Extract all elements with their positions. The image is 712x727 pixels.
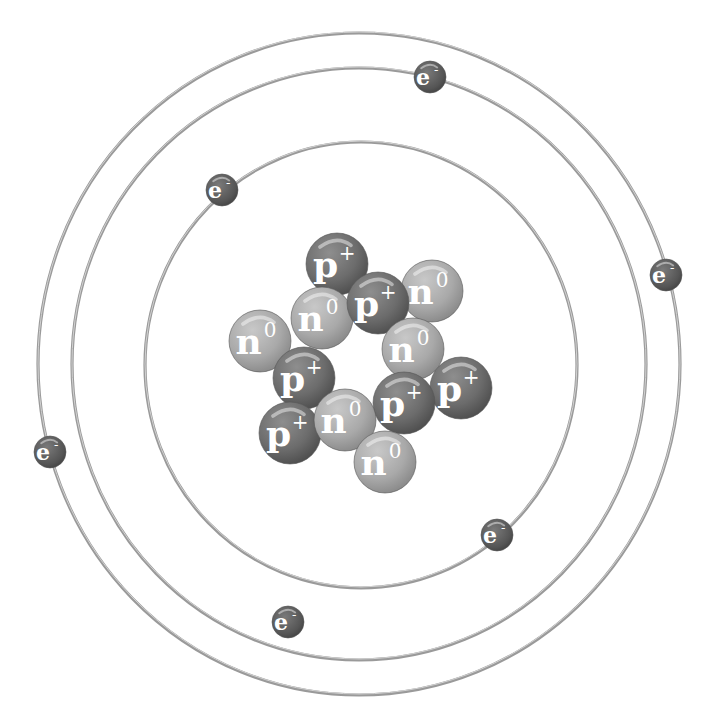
orbit-highlight bbox=[38, 32, 680, 694]
electron-charge: - bbox=[292, 607, 296, 622]
neutron-charge: 0 bbox=[264, 318, 277, 342]
neutron: n0 bbox=[354, 431, 416, 493]
neutron-symbol: n bbox=[388, 328, 414, 370]
electron-symbol: e bbox=[208, 177, 222, 203]
proton: p+ bbox=[430, 357, 492, 419]
orbit-middle bbox=[72, 68, 646, 660]
electron-charge: - bbox=[501, 520, 505, 535]
proton-symbol: p bbox=[354, 282, 379, 324]
proton-charge: + bbox=[380, 280, 397, 304]
electron-charge: - bbox=[670, 260, 674, 275]
electron: e- bbox=[481, 519, 513, 551]
orbit-outer bbox=[38, 33, 680, 695]
proton: p+ bbox=[373, 372, 435, 434]
proton: p+ bbox=[259, 402, 321, 464]
proton-symbol: p bbox=[266, 412, 291, 454]
neutron-charge: 0 bbox=[417, 326, 430, 350]
atom-diagram: e-e-e-e-e-e- p+n0n0n0p+n0p+p+p+p+n0n0 bbox=[0, 0, 712, 727]
electron: e- bbox=[272, 606, 304, 638]
neutron: n0 bbox=[291, 287, 353, 349]
proton-symbol: p bbox=[280, 357, 305, 399]
proton-charge: + bbox=[292, 410, 309, 434]
neutron-charge: 0 bbox=[326, 295, 339, 319]
neutron: n0 bbox=[401, 260, 463, 322]
orbit-group bbox=[38, 32, 680, 695]
orbit-highlight bbox=[72, 67, 646, 659]
neutron-symbol: n bbox=[360, 441, 386, 483]
electron: e- bbox=[206, 174, 238, 206]
proton-symbol: p bbox=[437, 367, 462, 409]
electron-symbol: e bbox=[483, 522, 497, 548]
electron-symbol: e bbox=[416, 64, 430, 90]
electron-charge: - bbox=[54, 437, 58, 452]
proton-charge: + bbox=[406, 380, 423, 404]
proton-symbol: p bbox=[380, 382, 405, 424]
neutron: n0 bbox=[382, 318, 444, 380]
neutron-symbol: n bbox=[235, 320, 261, 362]
proton-charge: + bbox=[306, 355, 323, 379]
electron-symbol: e bbox=[36, 439, 50, 465]
electron-group: e-e-e-e-e-e- bbox=[34, 61, 682, 638]
proton-symbol: p bbox=[313, 243, 338, 285]
neutron-charge: 0 bbox=[349, 397, 362, 421]
neutron-symbol: n bbox=[320, 399, 346, 441]
neutron-symbol: n bbox=[407, 270, 433, 312]
proton-charge: + bbox=[339, 241, 356, 265]
electron: e- bbox=[650, 259, 682, 291]
nucleus: p+n0n0n0p+n0p+p+p+p+n0n0 bbox=[229, 233, 492, 493]
neutron-charge: 0 bbox=[389, 439, 402, 463]
orbit-inner bbox=[145, 142, 577, 588]
neutron-charge: 0 bbox=[436, 268, 449, 292]
electron-charge: - bbox=[226, 175, 230, 190]
proton-charge: + bbox=[463, 365, 480, 389]
electron: e- bbox=[34, 436, 66, 468]
electron: e- bbox=[414, 61, 446, 93]
electron-charge: - bbox=[434, 62, 438, 77]
electron-symbol: e bbox=[274, 609, 288, 635]
electron-symbol: e bbox=[652, 262, 666, 288]
neutron-symbol: n bbox=[297, 297, 323, 339]
